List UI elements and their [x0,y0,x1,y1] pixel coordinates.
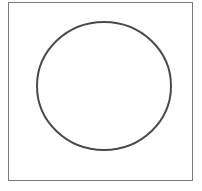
circle-shape [37,22,171,150]
diagram-canvas [0,0,202,191]
square-frame [9,3,193,181]
